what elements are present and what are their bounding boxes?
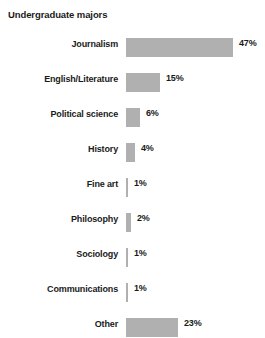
category-label: Fine art bbox=[0, 179, 118, 189]
bar-chart: Undergraduate majors Journalism47%Englis… bbox=[0, 0, 265, 338]
category-label: Journalism bbox=[0, 39, 118, 49]
bar-fill bbox=[126, 318, 178, 337]
category-label: Sociology bbox=[0, 249, 118, 259]
bar-value-label: 23% bbox=[184, 318, 202, 328]
bar-fill bbox=[126, 248, 128, 267]
bar-row: Communications1% bbox=[0, 278, 265, 313]
bar-value-label: 1% bbox=[134, 248, 147, 258]
category-label: Communications bbox=[0, 284, 118, 294]
bar-row: English/Literature15% bbox=[0, 68, 265, 103]
bar-fill bbox=[126, 108, 140, 127]
bar-fill bbox=[126, 38, 233, 57]
category-label: Philosophy bbox=[0, 214, 118, 224]
bar-value-label: 1% bbox=[134, 178, 147, 188]
bar-fill bbox=[126, 283, 128, 302]
bar-value-label: 1% bbox=[134, 283, 147, 293]
bar-row: Sociology1% bbox=[0, 243, 265, 278]
bar-fill bbox=[126, 143, 135, 162]
bar-row: Fine art1% bbox=[0, 173, 265, 208]
bar-value-label: 2% bbox=[137, 213, 150, 223]
bar-track bbox=[126, 73, 265, 92]
bar-value-label: 4% bbox=[141, 143, 154, 153]
category-label: History bbox=[0, 144, 118, 154]
bar-row: Philosophy2% bbox=[0, 208, 265, 243]
bar-row: Journalism47% bbox=[0, 33, 265, 68]
bar-row: History4% bbox=[0, 138, 265, 173]
chart-plot-area: Journalism47%English/Literature15%Politi… bbox=[0, 33, 265, 338]
bar-value-label: 15% bbox=[166, 73, 184, 83]
category-label: Political science bbox=[0, 109, 118, 119]
chart-title: Undergraduate majors bbox=[8, 9, 107, 20]
bar-value-label: 47% bbox=[239, 38, 257, 48]
bar-fill bbox=[126, 73, 160, 92]
bar-row: Political science6% bbox=[0, 103, 265, 138]
category-label: English/Literature bbox=[0, 74, 118, 84]
bar-fill bbox=[126, 178, 128, 197]
category-label: Other bbox=[0, 319, 118, 329]
bar-fill bbox=[126, 213, 131, 232]
bar-value-label: 6% bbox=[146, 108, 159, 118]
bar-row: Other23% bbox=[0, 313, 265, 338]
